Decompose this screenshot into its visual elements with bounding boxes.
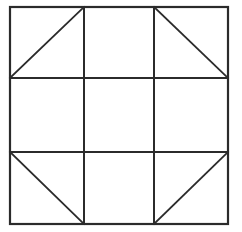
- figure-background: [0, 0, 242, 232]
- quilt-block-figure: [0, 0, 242, 232]
- quilt-block-drawing: [0, 0, 242, 232]
